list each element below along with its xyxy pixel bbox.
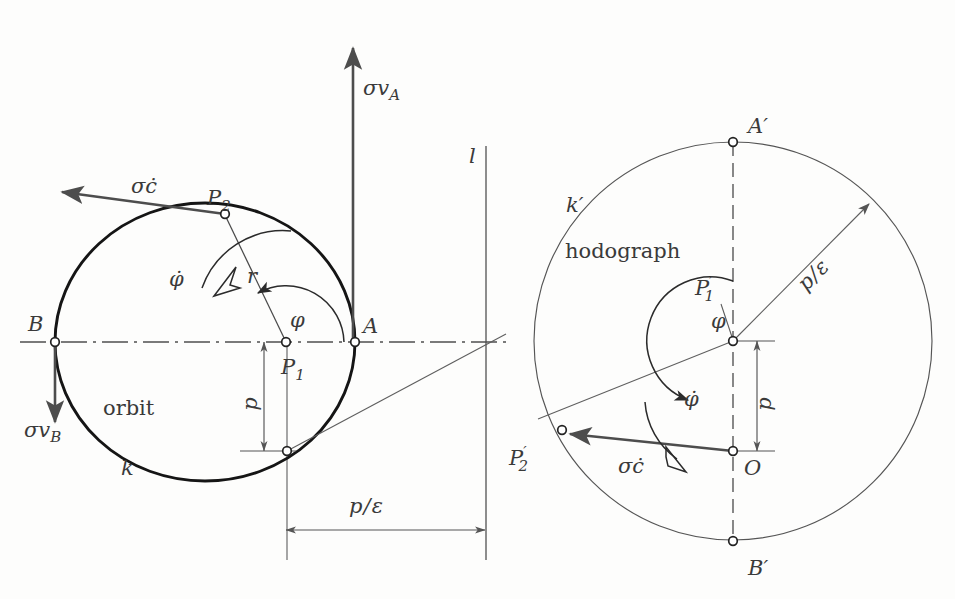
label-phidot-hodograph: φ̇ (684, 387, 699, 411)
figure-canvas: σvA σvB σċ P2 B A P1 r φ φ̇ orbit k l p … (0, 0, 955, 599)
label-directrix-l: l (469, 144, 476, 168)
label-orbit-caption: orbit (103, 396, 155, 420)
point-p2-prime-node (558, 426, 567, 435)
label-velocity-a: σvA (363, 76, 400, 104)
label-point-o: O (744, 456, 761, 480)
label-point-a-prime: A′ (746, 114, 768, 138)
label-dim-peps: p/ε (349, 494, 383, 518)
label-cdot-orbit: σċ (131, 174, 157, 198)
construction-ray (287, 334, 506, 451)
phidot-arc-hodograph (645, 402, 677, 459)
label-phidot-orbit: φ̇ (169, 267, 184, 291)
cdot-vector-hodograph (570, 434, 733, 451)
left-panel-orbit: σvA σvB σċ P2 B A P1 r φ φ̇ orbit k l p … (20, 48, 512, 560)
label-curve-k: k (121, 456, 134, 480)
diagram-svg: σvA σvB σċ P2 B A P1 r φ φ̇ orbit k l p … (0, 0, 955, 599)
label-point-a: A (361, 314, 378, 338)
point-a-node (351, 338, 360, 347)
label-dim-peps-group: p/ε (349, 494, 383, 518)
point-p1-node (282, 338, 291, 347)
label-dim-p-left-group: p (238, 397, 262, 410)
label-velocity-b: σvB (24, 418, 61, 446)
hodograph-chord-line (538, 341, 733, 419)
phi-angle-arc-hodograph (647, 277, 733, 400)
point-a-prime-node (729, 138, 738, 147)
label-hodograph-caption: hodograph (565, 239, 680, 263)
point-b-prime-node (729, 537, 738, 546)
label-radius-r: r (247, 264, 259, 288)
right-panel-hodograph: A′ B′ k′ hodograph P′1 P′2 O φ φ̇ σċ p/ε… (508, 114, 932, 580)
phidot-open-arrowhead (214, 267, 240, 296)
point-b-node (51, 338, 60, 347)
label-cdot-hodograph: σċ (618, 454, 644, 478)
point-p1-prime-node (729, 337, 738, 346)
label-phi-orbit: φ (290, 308, 305, 332)
point-o-node (729, 447, 738, 456)
label-point-p1-prime: P′1 (694, 273, 714, 305)
label-point-b: B (27, 312, 43, 336)
semilatus-node (283, 447, 292, 456)
label-radius-peps-group: p/ε (793, 255, 834, 296)
label-point-p2-prime: P′2 (508, 443, 528, 475)
label-dim-p-right: p (752, 397, 776, 410)
label-radius-peps: p/ε (793, 255, 834, 296)
label-dim-p-left: p (238, 397, 262, 410)
label-phi-hodograph: φ (711, 309, 726, 333)
label-point-b-prime: B′ (747, 556, 768, 580)
label-curve-k-prime: k′ (566, 193, 584, 217)
phidot-open-arrowhead-hodograph (666, 447, 686, 472)
label-point-p1: P1 (280, 355, 305, 384)
label-dim-p-right-group: p (752, 397, 776, 410)
